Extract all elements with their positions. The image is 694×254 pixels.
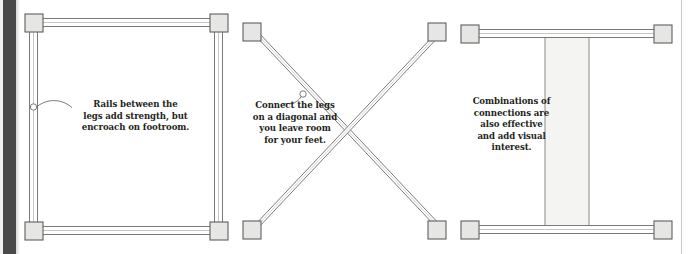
rail-left bbox=[29, 32, 38, 222]
leg-top-right bbox=[210, 14, 228, 32]
leg-bottom-right bbox=[654, 221, 672, 239]
leg-bottom-left bbox=[243, 221, 261, 239]
leg-top-left bbox=[25, 14, 43, 32]
leg-top-right bbox=[428, 23, 446, 41]
caption-combination-connections: Combinations of connections are also eff… bbox=[455, 96, 568, 154]
caption-rails-between-legs: Rails between the legs add strength, but… bbox=[68, 99, 203, 134]
callout-marker-circle-mid bbox=[300, 91, 306, 97]
rail-right bbox=[214, 32, 223, 222]
leg-bottom-right bbox=[210, 222, 228, 240]
leg-bottom-left bbox=[25, 222, 43, 240]
callout-leader-left bbox=[37, 101, 72, 108]
caption-diagonal-cross-brace: Connect the legs on a diagonal and you l… bbox=[239, 100, 351, 146]
leg-bottom-left bbox=[461, 221, 479, 239]
callout-marker-circle-left bbox=[30, 104, 36, 110]
rail-bottom bbox=[34, 226, 219, 235]
diagram-canvas: Rails between the legs add strength, but… bbox=[0, 0, 694, 254]
rail-bottom bbox=[470, 225, 656, 234]
leg-top-right bbox=[654, 25, 672, 43]
leg-top-left bbox=[243, 23, 261, 41]
rail-top bbox=[34, 18, 219, 27]
leg-bottom-right bbox=[428, 221, 446, 239]
rail-top bbox=[470, 29, 656, 38]
leg-top-left bbox=[461, 25, 479, 43]
